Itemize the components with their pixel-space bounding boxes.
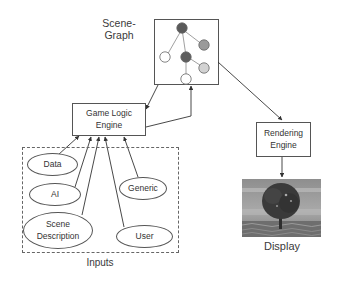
game-logic-engine-box: Game Logic Engine (72, 103, 146, 136)
scene-graph-label-line2: Graph (96, 29, 142, 41)
input-data: Data (27, 153, 78, 176)
game-logic-engine-line2: Engine (86, 120, 132, 131)
input-data-label: Data (44, 159, 62, 170)
input-user: User (116, 225, 173, 248)
input-scene-description: Scene Description (23, 212, 93, 249)
input-scene-description-line2: Description (37, 231, 80, 242)
input-user-label: User (136, 231, 154, 242)
arrow-scenegraph-to-gamelogic (146, 85, 158, 109)
input-ai: AI (29, 183, 81, 206)
scene-graph-root-node (177, 23, 187, 33)
scene-graph-label-line1: Scene- (96, 17, 142, 29)
arrow-gamelogic-to-scenegraph (146, 86, 191, 127)
display-image (242, 179, 321, 237)
tree-render-image (242, 179, 321, 237)
input-generic-label: Generic (128, 183, 158, 194)
input-scene-description-line1: Scene (37, 219, 80, 230)
input-ai-label: AI (51, 189, 59, 200)
scene-graph-label: Scene- Graph (96, 17, 142, 41)
scene-graph-leaf-node (181, 74, 191, 84)
rendering-engine-line2: Engine (264, 140, 303, 151)
rendering-engine-line1: Rendering (264, 128, 303, 139)
rendering-engine-box: Rendering Engine (256, 122, 311, 157)
scene-graph-leaf-node (199, 63, 209, 73)
game-logic-engine-line1: Game Logic (86, 108, 132, 119)
display-label: Display (252, 240, 312, 253)
scene-graph-inner-node (181, 52, 191, 62)
scene-graph-leaf-node (199, 40, 209, 50)
input-generic: Generic (119, 177, 167, 200)
arrow-scenegraph-to-rendering (218, 62, 282, 120)
scene-graph-leaf-node (160, 52, 170, 62)
inputs-label: Inputs (70, 257, 130, 269)
